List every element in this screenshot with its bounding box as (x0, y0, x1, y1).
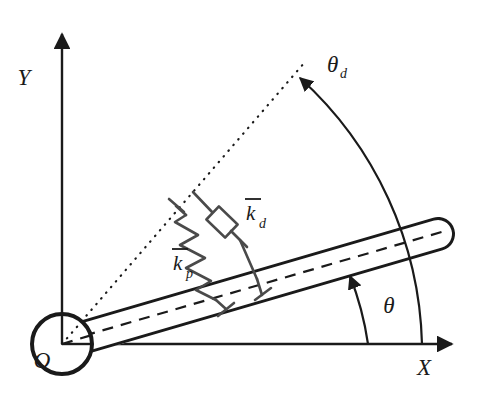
theta-label: θ (383, 293, 394, 318)
label-layer: Y X O θ θ d k p k d (0, 0, 477, 407)
y-axis-label: Y (18, 65, 33, 90)
theta-d-label: θ (327, 52, 338, 77)
damper-label: k (246, 201, 256, 225)
spring-label-group: k p (172, 249, 193, 281)
damper-label-subscript: d (259, 216, 267, 231)
x-axis-label: X (416, 355, 432, 380)
origin-label: O (34, 348, 51, 373)
spring-label-subscript: p (185, 266, 193, 281)
spring-label: k (173, 251, 183, 275)
theta-d-label-group: θ d (327, 52, 348, 81)
damper-label-group: k d (245, 199, 267, 231)
theta-d-subscript: d (340, 66, 348, 81)
kinematic-diagram: Y X O θ θ d k p k d (0, 0, 477, 407)
